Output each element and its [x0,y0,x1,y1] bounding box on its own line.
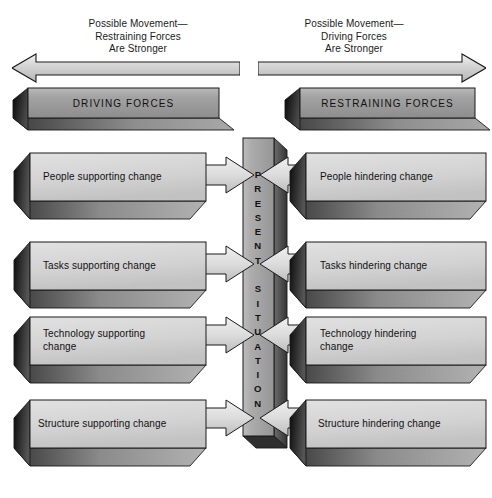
driving-force-label-0: People supporting change [43,170,203,183]
banner-driving-forces-label: DRIVING FORCES [28,97,219,110]
banner-restraining-forces-label: RESTRAINING FORCES [300,97,475,110]
caption-driving-stronger: Possible Movement— Driving Forces Are St… [254,18,454,56]
restraining-force-box-0[interactable]: People hindering change [272,153,486,219]
restraining-force-label-3: Structure hindering change [318,417,486,430]
caption-restraining-stronger: Possible Movement— Restraining Forces Ar… [38,18,238,56]
driving-force-box-2[interactable]: Technology supporting change [14,317,260,383]
driving-force-label-1: Tasks supporting change [43,259,203,272]
left-direction-arrow-icon [12,53,240,83]
restraining-force-label-1: Tasks hindering change [320,259,484,272]
restraining-force-label-2: Technology hindering change [320,327,470,353]
driving-force-box-0[interactable]: People supporting change [14,153,260,219]
driving-force-box-1[interactable]: Tasks supporting change [14,242,260,308]
restraining-force-box-2[interactable]: Technology hindering change [272,317,486,383]
force-field-diagram: Possible Movement— Restraining Forces Ar… [0,0,492,498]
restraining-force-box-1[interactable]: Tasks hindering change [272,242,486,308]
banner-driving-forces: DRIVING FORCES [12,88,234,130]
restraining-force-label-0: People hindering change [320,170,484,183]
driving-force-label-2: Technology supporting change [43,327,193,353]
banner-restraining-forces: RESTRAINING FORCES [284,88,490,130]
right-direction-arrow-icon [258,53,486,83]
restraining-force-box-3[interactable]: Structure hindering change [272,400,486,466]
driving-force-label-3: Structure supporting change [38,417,208,430]
driving-force-box-3[interactable]: Structure supporting change [14,400,260,466]
